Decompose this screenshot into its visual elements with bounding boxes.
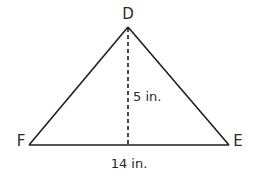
base-label: 14 in. bbox=[111, 156, 148, 171]
vertex-label-f: F bbox=[17, 132, 26, 150]
vertex-label-e: E bbox=[233, 132, 242, 150]
altitude-label: 5 in. bbox=[133, 89, 161, 104]
triangle-diagram: D F E 5 in. 14 in. bbox=[0, 0, 255, 177]
side-df bbox=[29, 27, 128, 145]
vertex-label-d: D bbox=[122, 5, 134, 23]
triangle-svg: D F E 5 in. 14 in. bbox=[0, 0, 255, 177]
side-de bbox=[128, 27, 229, 145]
